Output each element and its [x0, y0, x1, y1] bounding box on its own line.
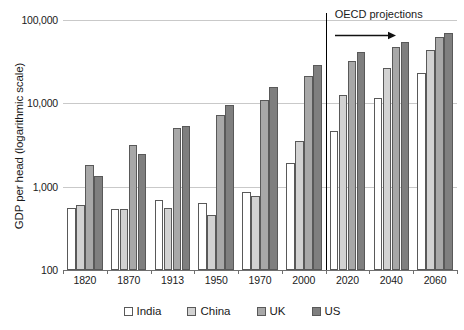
bar-us-1913 — [182, 126, 191, 270]
bar-china-1970 — [251, 196, 260, 270]
y-axis-tick-label: 100,000 — [21, 14, 58, 26]
bar-us-1970 — [269, 87, 278, 270]
bar-uk-1950 — [216, 115, 225, 270]
legend-swatch-icon — [124, 307, 133, 316]
legend-item-china[interactable]: China — [187, 305, 230, 317]
legend-item-label: UK — [270, 305, 286, 317]
bar-us-1870 — [138, 154, 147, 270]
x-axis-tick-mark — [194, 270, 195, 274]
bar-china-1950 — [207, 215, 216, 270]
x-axis-tick-mark — [107, 270, 108, 274]
bar-uk-1820 — [85, 165, 94, 270]
legend-item-uk[interactable]: UK — [257, 305, 286, 317]
x-axis-line — [63, 270, 457, 271]
x-axis-tick-label: 2060 — [424, 274, 447, 286]
bar-uk-1870 — [129, 145, 138, 270]
bar-india-2060 — [417, 73, 426, 270]
x-axis-tick-label: 2000 — [292, 274, 315, 286]
x-axis-tick-mark — [457, 270, 458, 274]
bar-us-2020 — [357, 52, 366, 270]
legend-swatch-icon — [312, 307, 321, 316]
bar-china-2020 — [339, 95, 348, 270]
x-axis-tick-label: 1970 — [249, 274, 272, 286]
bar-us-1950 — [225, 105, 234, 270]
bar-india-1820 — [67, 208, 76, 270]
bar-india-1870 — [111, 209, 120, 270]
chart-legend: IndiaChinaUKUS — [0, 305, 464, 317]
y-axis-tick-label: 10,000 — [27, 97, 58, 109]
legend-item-label: India — [137, 305, 162, 317]
bar-india-1913 — [155, 200, 164, 270]
bar-india-1950 — [198, 203, 207, 270]
bar-uk-1913 — [173, 128, 182, 270]
bar-china-2000 — [295, 141, 304, 270]
bar-uk-2020 — [348, 61, 357, 270]
chart-figure: GDP per head (logarithmic scale) 100,000… — [0, 0, 464, 330]
x-axis-tick-mark — [326, 270, 327, 274]
legend-item-us[interactable]: US — [312, 305, 341, 317]
bar-uk-2000 — [304, 76, 313, 270]
gridline — [63, 20, 457, 21]
bar-uk-2040 — [392, 47, 401, 270]
bar-india-2040 — [374, 98, 383, 270]
bar-uk-1970 — [260, 100, 269, 270]
y-axis-tick-label: 1,000 — [33, 181, 58, 193]
bar-china-1870 — [120, 209, 129, 270]
bar-us-1820 — [94, 176, 103, 270]
oecd-projections-label: OECD projections — [335, 8, 423, 20]
x-axis-tick-mark — [238, 270, 239, 274]
bar-india-2000 — [286, 163, 295, 271]
bar-us-2060 — [444, 33, 453, 270]
plot-area: 100,00010,0001,000100 182018701913195019… — [63, 20, 457, 270]
bar-us-2040 — [401, 42, 410, 270]
x-axis-tick-label: 1870 — [117, 274, 140, 286]
bar-china-1913 — [164, 208, 173, 270]
x-axis-tick-mark — [63, 270, 64, 274]
legend-item-label: US — [325, 305, 341, 317]
x-axis-tick-label: 1950 — [205, 274, 228, 286]
legend-item-label: China — [200, 305, 230, 317]
x-axis-tick-label: 1820 — [73, 274, 96, 286]
legend-item-india[interactable]: India — [124, 305, 162, 317]
bar-china-2060 — [426, 50, 435, 270]
bar-india-2020 — [330, 131, 339, 270]
x-axis-tick-label: 1913 — [161, 274, 184, 286]
bar-china-2040 — [383, 68, 392, 270]
legend-swatch-icon — [257, 307, 266, 316]
x-axis-tick-mark — [369, 270, 370, 274]
bar-us-2000 — [313, 65, 322, 270]
x-axis-tick-label: 2040 — [380, 274, 403, 286]
bar-uk-2060 — [435, 37, 444, 270]
x-axis-tick-mark — [151, 270, 152, 274]
oecd-projections-arrow-icon — [335, 26, 397, 35]
x-axis-tick-mark — [282, 270, 283, 274]
legend-swatch-icon — [187, 307, 196, 316]
x-axis-tick-label: 2020 — [336, 274, 359, 286]
x-axis-tick-mark — [413, 270, 414, 274]
y-axis-tick-label: 100 — [41, 264, 58, 276]
y-axis-title: GDP per head (logarithmic scale) — [13, 41, 25, 251]
projection-divider-line — [326, 13, 328, 270]
bar-india-1970 — [242, 192, 251, 270]
bar-china-1820 — [76, 205, 85, 270]
